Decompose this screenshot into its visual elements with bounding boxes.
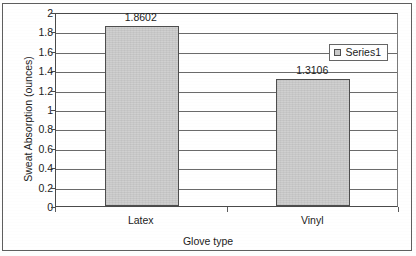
y-axis-tick-label: 1 (19, 105, 53, 115)
y-axis-tick-label: 0 (19, 202, 53, 212)
y-axis-tick-label: 0.8 (19, 124, 53, 134)
data-label-vinyl: 1.3106 (252, 64, 372, 76)
x-axis-tick-label-latex: Latex (81, 214, 201, 226)
y-axis-tick-mark (51, 207, 55, 208)
legend-swatch-series1 (334, 49, 341, 56)
y-axis-tick-mark (51, 149, 55, 150)
x-axis-tick-label-vinyl: Vinyl (252, 214, 372, 226)
x-axis-tick-mark (398, 207, 399, 212)
y-axis-tick-labels: 00.20.40.60.811.21.41.61.82 (15, 0, 53, 256)
y-axis-tick-label: 1.2 (19, 86, 53, 96)
x-axis-tick-mark (55, 207, 56, 212)
y-axis-tick-label: 1.8 (19, 27, 53, 37)
y-axis-tick-mark (51, 91, 55, 92)
y-axis-tick-mark (51, 71, 55, 72)
y-axis-tick-mark (51, 188, 55, 189)
y-axis-tick-label: 0.4 (19, 163, 53, 173)
y-axis-tick-mark (51, 52, 55, 53)
x-axis-tick-mark (227, 207, 228, 212)
bar-latex[interactable] (105, 26, 179, 206)
y-axis-tick-label: 1.6 (19, 47, 53, 57)
y-axis-tick-label: 2 (19, 8, 53, 18)
x-axis-title: Glove type (0, 235, 416, 247)
y-axis-tick-label: 1.4 (19, 66, 53, 76)
y-axis-tick-label: 0.6 (19, 144, 53, 154)
bar-vinyl[interactable] (276, 79, 350, 206)
y-axis-tick-label: 0.2 (19, 183, 53, 193)
data-label-latex: 1.8602 (81, 11, 201, 23)
legend[interactable]: Series1 (329, 44, 388, 61)
legend-label-series1: Series1 (345, 47, 381, 58)
plot-area: Series1 (55, 13, 398, 207)
y-axis-tick-mark (51, 13, 55, 14)
y-axis-tick-mark (51, 32, 55, 33)
chart-figure: Sweat Absorption (ounces) 00.20.40.60.81… (0, 0, 416, 256)
y-axis-tick-mark (51, 168, 55, 169)
y-axis-tick-mark (51, 129, 55, 130)
y-axis-tick-mark (51, 110, 55, 111)
